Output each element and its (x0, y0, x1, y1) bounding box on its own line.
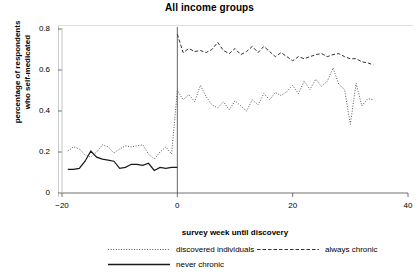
series-line (68, 68, 374, 159)
plot-canvas (58, 25, 413, 197)
y-tick-label: 0 (24, 188, 50, 197)
x-tick-label: 20 (278, 201, 308, 210)
legend-label: discovered individuals (176, 243, 254, 256)
legend-label: always chronic (325, 243, 377, 256)
x-tick-label: 40 (393, 201, 419, 210)
legend-key-dashed-icon (257, 249, 319, 250)
chart-legend: discovered individuals always chronic ne… (0, 243, 419, 273)
legend-row-1: discovered individuals always chronic (0, 243, 419, 258)
x-tick-label: 0 (162, 201, 192, 210)
y-tick-label: 0.4 (24, 106, 50, 115)
x-axis-label: survey week until discovery (55, 228, 415, 237)
series-line (177, 34, 373, 65)
legend-row-2: never chronic (0, 258, 419, 273)
chart-figure: All income groups percentage of responde… (0, 0, 419, 279)
legend-label: never chronic (176, 258, 224, 271)
plot-area (58, 25, 413, 197)
legend-key-dotted-icon (108, 249, 170, 250)
y-tick-label: 0.8 (24, 24, 50, 33)
series-line (68, 151, 178, 170)
x-tick-label: −20 (47, 201, 77, 210)
legend-key-solid-icon (108, 264, 170, 265)
y-axis-label-line-1: percentage of respondents (13, 2, 23, 142)
chart-title: All income groups (0, 2, 419, 13)
y-tick-label: 0.6 (24, 65, 50, 74)
y-tick-label: 0.2 (24, 147, 50, 156)
